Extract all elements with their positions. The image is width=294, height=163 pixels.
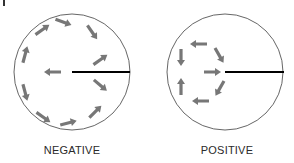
flow-arrow-icon (190, 40, 207, 48)
flow-arrow-icon (91, 52, 110, 68)
flow-arrow-icon (192, 97, 209, 105)
flow-arrow-icon (212, 79, 227, 98)
flow-arrow-icon (87, 103, 105, 121)
flow-arrow-icon (44, 68, 61, 76)
panel-positive (167, 14, 284, 130)
flow-arrow-icon (84, 23, 100, 42)
label-positive: POSITIVE (177, 144, 277, 156)
flow-arrow-icon (177, 78, 185, 95)
corner-tick-mark (3, 0, 5, 6)
flow-arrow-icon (34, 109, 53, 125)
label-negative: NEGATIVE (22, 144, 122, 156)
flow-arrow-icon (204, 68, 221, 76)
flow-arrow-icon (33, 22, 52, 38)
flow-arrow-icon (177, 49, 185, 66)
diagram-stage: NEGATIVE POSITIVE (0, 0, 294, 163)
flow-arrow-icon (212, 46, 227, 65)
flow-arrow-icon (59, 117, 77, 129)
panel-negative (14, 14, 130, 130)
flow-arrow-icon (19, 45, 31, 63)
flow-arrow-icon (91, 77, 109, 94)
flow-arrow-icon (54, 16, 73, 29)
flow-diagram (0, 0, 294, 163)
